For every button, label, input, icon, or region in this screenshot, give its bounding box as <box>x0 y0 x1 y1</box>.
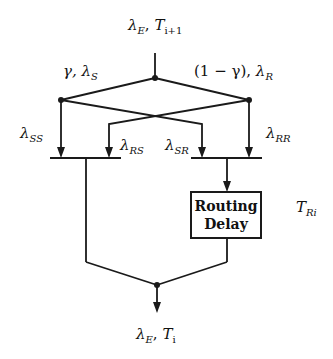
merge-edge-right <box>157 262 227 285</box>
arrow-ss-icon <box>57 147 65 158</box>
right-branch-label: (1 − γ), λR <box>194 62 273 82</box>
edge-rs <box>109 100 249 150</box>
edge-sr <box>61 100 202 150</box>
flow-label-ss: λSS <box>19 124 43 144</box>
routing-diagram: λE, Ti+1 γ, λS (1 − γ), λR λSS λRS λSR λ… <box>0 0 333 359</box>
input-label: λE, Ti+1 <box>127 16 182 36</box>
arrow-sr-icon <box>198 147 206 158</box>
edge-top-left <box>61 78 155 100</box>
flow-label-sr: λSR <box>164 136 189 156</box>
flow-label-rs: λRS <box>119 136 144 156</box>
edge-top-right <box>155 78 249 100</box>
left-branch-label: γ, λS <box>63 62 98 82</box>
arrow-rs-icon <box>105 147 113 158</box>
merge-edge-left <box>86 262 157 285</box>
arrow-output-icon <box>153 302 161 313</box>
routing-delay-line2: Delay <box>204 216 248 232</box>
output-label: λE, Ti <box>135 325 176 345</box>
routing-delay-line1: Routing <box>195 198 258 214</box>
arrow-routing-icon <box>223 181 231 192</box>
delay-time-label: TRi <box>296 198 317 218</box>
flow-label-rr: λRR <box>265 124 291 144</box>
arrow-rr-icon <box>245 147 253 158</box>
